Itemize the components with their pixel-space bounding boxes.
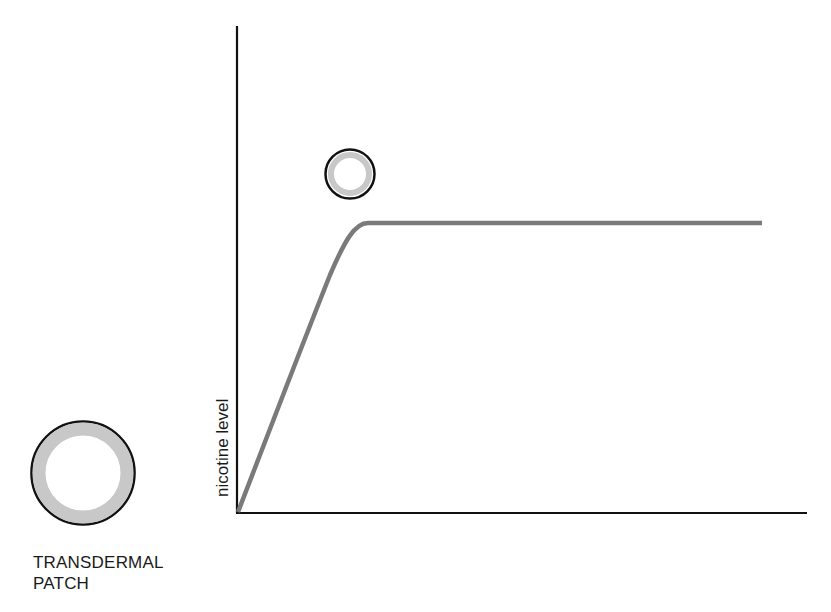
patch-caption: TRANSDERMAL PATCH (33, 552, 164, 594)
patch-caption-line-1: TRANSDERMAL (33, 552, 164, 573)
nicotine-curve (238, 223, 762, 512)
transdermal-patch-icon (32, 422, 135, 525)
patch-caption-line-2: PATCH (33, 573, 164, 594)
y-axis-label: nicotine level (213, 399, 232, 497)
nicotine-chart: nicotine level (0, 0, 831, 612)
small-patch-icon (326, 150, 375, 199)
